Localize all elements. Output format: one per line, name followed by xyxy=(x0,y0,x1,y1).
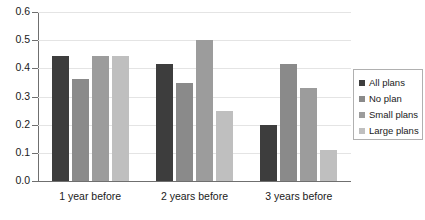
bar-group xyxy=(142,12,246,181)
bar-chart: 0.00.10.20.30.40.50.6 1 year before2 yea… xyxy=(0,0,425,220)
legend: All plansNo planSmall plansLarge plans xyxy=(353,69,423,140)
legend-item[interactable]: No plan xyxy=(359,91,422,106)
x-axis-category-label: 3 years before xyxy=(247,190,351,202)
bar xyxy=(156,64,173,181)
bar xyxy=(300,88,317,181)
bar xyxy=(112,56,129,181)
y-axis-tick-label: 0.2 xyxy=(0,118,30,130)
bar xyxy=(216,111,233,181)
x-axis-category-label: 2 years before xyxy=(142,190,246,202)
bar xyxy=(196,40,213,181)
y-axis-tick-label: 0.5 xyxy=(0,33,30,45)
y-axis-tick-label: 0.6 xyxy=(0,5,30,17)
legend-label: Large plans xyxy=(369,126,419,136)
x-axis-line xyxy=(38,181,351,182)
bar-group xyxy=(247,12,351,181)
legend-label: All plans xyxy=(369,78,405,88)
legend-label: Small plans xyxy=(369,110,418,120)
bar xyxy=(260,125,277,181)
bar xyxy=(72,79,89,181)
bar xyxy=(52,56,69,181)
legend-item[interactable]: Small plans xyxy=(359,107,422,122)
y-axis-tick-label: 0.0 xyxy=(0,174,30,186)
bar-group xyxy=(38,12,142,181)
legend-swatch-icon xyxy=(359,112,365,118)
bar xyxy=(320,150,337,181)
legend-swatch-icon xyxy=(359,128,365,134)
y-axis-tick-label: 0.3 xyxy=(0,90,30,102)
bar xyxy=(92,56,109,181)
bar xyxy=(280,64,297,181)
y-axis-tick-label: 0.1 xyxy=(0,146,30,158)
legend-item[interactable]: All plans xyxy=(359,75,422,90)
x-axis-category-label: 1 year before xyxy=(38,190,142,202)
bar xyxy=(176,83,193,181)
legend-swatch-icon xyxy=(359,80,365,86)
plot-area xyxy=(38,12,351,181)
legend-label: No plan xyxy=(369,94,402,104)
y-axis-tick-label: 0.4 xyxy=(0,61,30,73)
legend-item[interactable]: Large plans xyxy=(359,123,422,138)
legend-swatch-icon xyxy=(359,96,365,102)
